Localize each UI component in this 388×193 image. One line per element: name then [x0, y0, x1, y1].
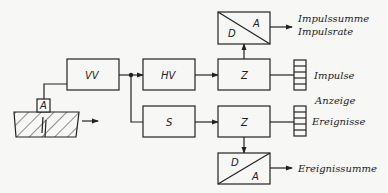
- connector-sensor-vv: [44, 84, 67, 99]
- label-anzeige: Anzeige: [314, 95, 355, 106]
- da-converter-bottom: [218, 153, 270, 184]
- hv-label: HV: [161, 70, 177, 81]
- event-counter-display: [294, 106, 306, 136]
- workpiece: [14, 112, 79, 137]
- signal-processing-block-diagram: A VV HV S Z Z D A D A Impulssumme Impuls…: [0, 0, 388, 193]
- vv-label: VV: [85, 70, 100, 81]
- connector-junction-s: [131, 75, 143, 122]
- label-impulse: Impulse: [313, 70, 355, 81]
- da-converter-top: [218, 12, 270, 44]
- label-impulssumme: Impulssumme: [297, 13, 369, 24]
- z-top-label: Z: [240, 70, 249, 81]
- da-bottom-d-label: D: [231, 157, 239, 168]
- da-bottom-a-label: A: [251, 171, 259, 182]
- label-ereignissumme: Ereignissumme: [297, 163, 377, 174]
- sensor-label: A: [39, 100, 47, 111]
- impulse-counter-display: [294, 60, 306, 90]
- label-impulsrate: Impulsrate: [297, 26, 353, 37]
- label-ereignisse: Ereignisse: [311, 116, 366, 127]
- s-label: S: [166, 117, 173, 128]
- z-bottom-label: Z: [240, 117, 249, 128]
- da-top-d-label: D: [228, 28, 236, 39]
- da-top-a-label: A: [252, 18, 260, 29]
